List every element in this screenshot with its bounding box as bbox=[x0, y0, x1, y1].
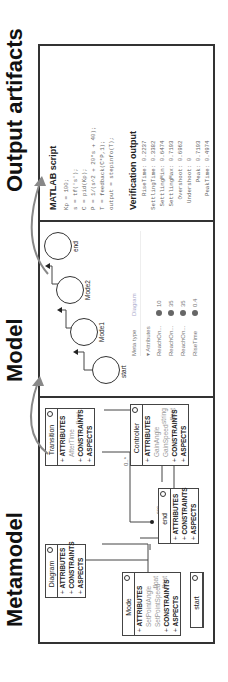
arrow-model-to-output bbox=[32, 182, 48, 274]
arrow-metamodel-to-model bbox=[31, 382, 48, 454]
figure: Metamodel Model Output artifacts 0..* 0.… bbox=[0, 0, 228, 682]
flow-arrows bbox=[0, 0, 228, 682]
